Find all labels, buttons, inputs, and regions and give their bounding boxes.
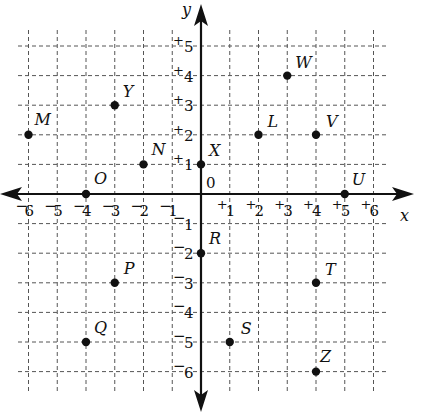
point-label: V [326,112,339,131]
x-axis-label: x [400,206,409,225]
svg-text:3: 3 [111,202,121,220]
svg-text:6: 6 [25,202,35,220]
point-marker-icon [139,160,147,168]
svg-text:1: 1 [184,156,194,174]
origin-label: 0 [206,174,216,192]
y-tick-label: −1 [173,209,194,234]
point-marker-icon [82,338,90,346]
point-marker-icon [283,71,291,79]
point-label: T [325,260,337,279]
svg-text:4: 4 [184,68,194,86]
point-label: X [207,141,221,160]
svg-text:3: 3 [184,275,194,293]
svg-text:+: + [173,33,184,48]
point-label: Z [319,347,332,366]
point-label: M [34,110,52,129]
svg-text:+: + [173,63,184,78]
y-tick-label: −2 [173,238,194,263]
point-marker-icon [197,160,205,168]
svg-text:2: 2 [140,202,150,220]
point-marker-icon [226,338,234,346]
point-label: U [352,170,366,189]
y-tick-label: +3 [173,92,194,115]
y-tick-label: −4 [173,297,194,322]
svg-text:1: 1 [226,202,236,220]
svg-text:+: + [173,151,184,166]
point-label: Y [123,82,135,101]
point-marker-icon [312,367,320,375]
x-tick-label: +2 [246,197,265,220]
x-tick-label: −3 [102,197,121,220]
svg-text:5: 5 [341,202,351,220]
point-marker-icon [197,249,205,257]
svg-text:2: 2 [184,127,194,145]
point-marker-icon [82,190,90,198]
point-marker-icon [254,131,262,139]
x-tick-label: +1 [217,197,236,220]
point-marker-icon [341,190,349,198]
svg-text:4: 4 [184,304,194,322]
x-tick-label: −4 [73,197,92,220]
x-tick-label: +6 [361,197,380,220]
svg-text:3: 3 [184,97,194,115]
x-tick-label: −2 [131,197,150,220]
svg-text:4: 4 [82,202,92,220]
y-tick-label: +1 [173,151,194,174]
y-tick-label: −6 [173,357,194,382]
svg-text:6: 6 [184,364,194,382]
point-marker-icon [312,131,320,139]
point-label: S [241,319,252,338]
y-tick-label: −5 [173,327,194,352]
svg-text:+: + [173,92,184,107]
y-tick-label: +5 [173,33,194,56]
y-tick-label: +4 [173,63,194,86]
y-axis-label: y [181,0,192,19]
point-marker-icon [24,131,32,139]
x-tick-label: +3 [274,197,293,220]
point-label: N [151,140,167,159]
x-tick-label: +5 [332,197,351,220]
y-tick-label: −3 [173,268,194,293]
point-label: L [267,112,279,131]
svg-text:6: 6 [370,202,380,220]
coordinate-plane: xy0 −6−5−4−3−2−1+1+2+3+4+5+6+5+4+3+2+1−1… [0,0,429,420]
point-label: P [123,259,135,278]
svg-text:5: 5 [53,202,63,220]
point-label: R [208,229,221,248]
point-label: Q [94,318,107,337]
point-marker-icon [111,279,119,287]
point-marker-icon [312,279,320,287]
svg-text:4: 4 [312,202,322,220]
tick-labels: −6−5−4−3−2−1+1+2+3+4+5+6+5+4+3+2+1−1−2−3… [16,33,380,382]
point-marker-icon [111,101,119,109]
svg-text:2: 2 [184,245,194,263]
point-label: W [295,53,313,72]
svg-text:2: 2 [255,202,265,220]
x-tick-label: −6 [16,197,35,220]
svg-text:5: 5 [184,334,194,352]
x-tick-label: +4 [303,197,322,220]
svg-text:5: 5 [184,38,194,56]
x-tick-label: −5 [44,197,63,220]
svg-text:3: 3 [283,202,293,220]
svg-text:+: + [173,122,184,137]
svg-text:1: 1 [184,216,194,234]
point-label: O [94,169,107,188]
y-tick-label: +2 [173,122,194,145]
